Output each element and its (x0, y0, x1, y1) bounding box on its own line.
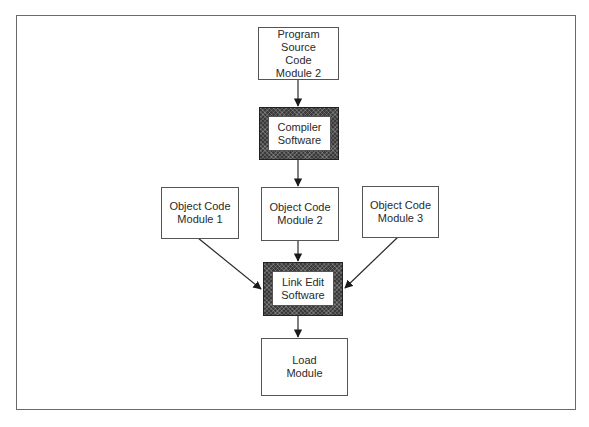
node-label: Module 2 (269, 214, 330, 227)
node-label: Module 2 (259, 67, 338, 80)
node-link-edit-software: Link Edit Software (263, 262, 343, 316)
node-load-module: Load Module (261, 338, 348, 396)
node-label: Software (277, 134, 321, 147)
node-label: Module (286, 367, 322, 380)
node-label: Compiler (277, 121, 321, 134)
node-label: Link Edit (281, 276, 324, 289)
arrow-obj1-to-linkedit (198, 238, 261, 289)
node-compiler-software: Compiler Software (259, 107, 339, 160)
node-label: Object Code (269, 201, 330, 214)
node-object-code-module-2: Object Code Module 2 (261, 187, 339, 241)
node-label: Code (259, 54, 338, 67)
node-label: Software (281, 289, 324, 302)
node-label: Load (286, 354, 322, 367)
node-program-source-code: Program Source Code Module 2 (258, 27, 339, 80)
node-label: Object Code (370, 199, 431, 212)
arrow-obj3-to-linkedit (345, 237, 398, 288)
node-object-code-module-1: Object Code Module 1 (161, 187, 239, 239)
node-label: Module 3 (370, 212, 431, 225)
node-object-code-module-3: Object Code Module 3 (362, 186, 439, 238)
node-label: Object Code (169, 200, 230, 213)
node-label: Program Source (259, 28, 338, 54)
node-label: Module 1 (169, 213, 230, 226)
